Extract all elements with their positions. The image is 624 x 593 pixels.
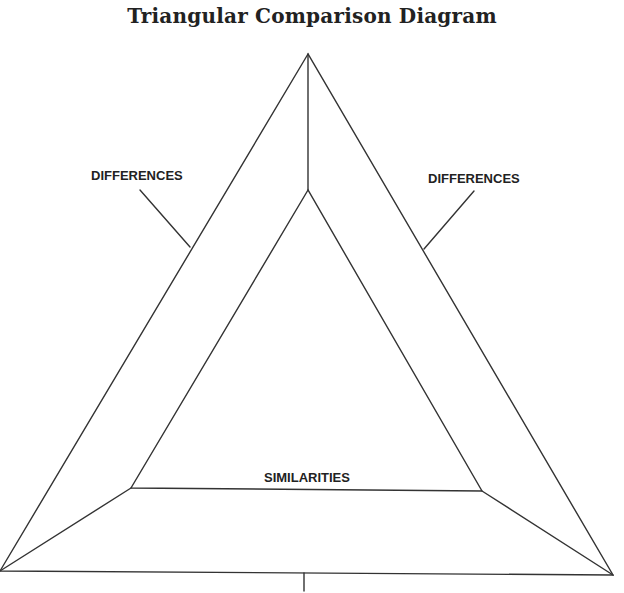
triangle-diagram bbox=[0, 0, 624, 593]
similarities-label: SIMILARITIES bbox=[264, 470, 350, 485]
right-connector bbox=[482, 491, 613, 575]
differences-right-label: DIFFERENCES bbox=[428, 171, 520, 186]
outer-triangle bbox=[0, 54, 613, 575]
inner-triangle bbox=[131, 190, 482, 491]
left-leader-line bbox=[140, 190, 190, 247]
differences-left-label: DIFFERENCES bbox=[91, 168, 183, 183]
right-leader-line bbox=[424, 191, 474, 249]
left-connector bbox=[0, 488, 131, 571]
